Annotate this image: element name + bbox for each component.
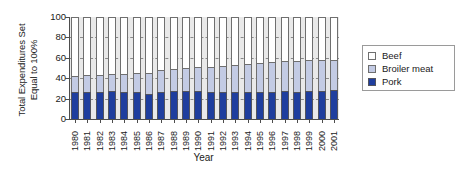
- bar-segment-beef: [182, 17, 190, 68]
- x-axis-tick-mark: [100, 119, 101, 123]
- bar-segment-pork: [133, 92, 141, 119]
- legend-item-label: Pork: [382, 77, 402, 87]
- stacked-bar[interactable]: [194, 17, 202, 119]
- bar-segment-broiler-meat: [293, 61, 301, 93]
- bar-segment-pork: [281, 91, 289, 119]
- y-axis-tick-label: 20: [42, 94, 66, 104]
- stacked-bar[interactable]: [256, 17, 264, 119]
- x-axis-tick-mark: [198, 119, 199, 123]
- bar-segment-beef: [244, 17, 252, 64]
- bar-segment-pork: [207, 92, 215, 119]
- y-axis-tick-mark: [65, 99, 69, 100]
- x-axis-tick-mark: [149, 119, 150, 123]
- bar-segment-pork: [182, 91, 190, 119]
- x-axis-tick-label: 1991: [206, 128, 216, 154]
- bar-segment-pork: [318, 91, 326, 119]
- stacked-bar[interactable]: [244, 17, 252, 119]
- x-axis-tick-labels: 1980198119821983198419851986198719881989…: [69, 124, 338, 150]
- stacked-bar[interactable]: [268, 17, 276, 119]
- bar-segment-pork: [219, 92, 227, 119]
- stacked-bar[interactable]: [83, 17, 91, 119]
- bar-segment-beef: [318, 17, 326, 60]
- stacked-bar[interactable]: [157, 17, 165, 119]
- bar-segment-beef: [207, 17, 215, 67]
- stacked-bar[interactable]: [207, 17, 215, 119]
- x-axis-tick-label: 1989: [181, 128, 191, 154]
- stacked-bar[interactable]: [281, 17, 289, 119]
- x-axis-tick-mark: [260, 119, 261, 123]
- pork-swatch: [368, 78, 376, 86]
- bar-segment-broiler-meat: [231, 65, 239, 93]
- x-axis-tick-label: 2000: [317, 128, 327, 154]
- y-axis-tick-label: 0: [42, 114, 66, 124]
- bar-segment-beef: [120, 17, 128, 74]
- bar-segment-broiler-meat: [157, 70, 165, 92]
- bar-segment-broiler-meat: [256, 63, 264, 93]
- x-axis-tick-label: 1984: [119, 128, 129, 154]
- x-axis-tick-mark: [223, 119, 224, 123]
- bar-segment-broiler-meat: [108, 74, 116, 91]
- bar-segment-beef: [219, 17, 227, 66]
- bar-segment-beef: [231, 17, 239, 65]
- stacked-bar[interactable]: [170, 17, 178, 119]
- plot-area: [69, 17, 339, 120]
- beef-swatch: [368, 52, 376, 60]
- legend-item[interactable]: Pork: [368, 76, 454, 88]
- legend-item[interactable]: Beef: [368, 50, 454, 62]
- stacked-bar[interactable]: [305, 17, 313, 119]
- x-axis-tick-mark: [285, 119, 286, 123]
- bar-segment-pork: [120, 92, 128, 119]
- x-axis-tick-label: 1999: [304, 128, 314, 154]
- bar-segment-pork: [268, 92, 276, 119]
- bar-segment-pork: [170, 91, 178, 119]
- y-axis-tick-mark: [65, 58, 69, 59]
- x-axis-tick-label: 1986: [144, 128, 154, 154]
- x-axis-tick-mark: [297, 119, 298, 123]
- x-axis-tick-mark: [248, 119, 249, 123]
- stacked-bar[interactable]: [219, 17, 227, 119]
- broiler-meat-swatch: [368, 65, 376, 73]
- bar-segment-broiler-meat: [318, 60, 326, 92]
- bar-segment-broiler-meat: [268, 62, 276, 93]
- stacked-bar[interactable]: [120, 17, 128, 119]
- bar-segment-pork: [330, 90, 338, 119]
- x-axis-tick-mark: [211, 119, 212, 123]
- bar-segment-broiler-meat: [305, 60, 313, 92]
- bar-segment-pork: [244, 92, 252, 119]
- bar-segment-pork: [194, 91, 202, 119]
- bar-segment-pork: [305, 91, 313, 119]
- legend-item[interactable]: Broiler meat: [368, 63, 454, 75]
- bar-segment-beef: [83, 17, 91, 75]
- x-axis-tick-label: 1997: [280, 128, 290, 154]
- stacked-bar[interactable]: [96, 17, 104, 119]
- bar-segment-pork: [71, 92, 79, 119]
- bar-segment-pork: [145, 94, 153, 120]
- bar-segment-beef: [293, 17, 301, 61]
- stacked-bar[interactable]: [231, 17, 239, 119]
- stacked-bar[interactable]: [108, 17, 116, 119]
- stacked-bar[interactable]: [145, 17, 153, 119]
- stacked-bar[interactable]: [330, 17, 338, 119]
- chart-legend: BeefBroiler meatPork: [362, 45, 455, 91]
- x-axis-tick-mark: [272, 119, 273, 123]
- x-axis-tick-label: 1982: [95, 128, 105, 154]
- stacked-bar[interactable]: [293, 17, 301, 119]
- bar-segment-broiler-meat: [330, 60, 338, 91]
- bar-segment-beef: [256, 17, 264, 63]
- y-axis-title-line-1: Total Expenditures Set: [16, 0, 28, 155]
- x-axis-tick-label: 1990: [193, 128, 203, 154]
- bar-segment-broiler-meat: [96, 75, 104, 92]
- y-axis-tick-mark: [65, 17, 69, 18]
- stacked-bar[interactable]: [133, 17, 141, 119]
- stacked-bar[interactable]: [182, 17, 190, 119]
- y-axis-tick-label: 100: [42, 12, 66, 22]
- stacked-bar[interactable]: [318, 17, 326, 119]
- y-axis-tick-label: 80: [42, 32, 66, 42]
- bar-segment-beef: [157, 17, 165, 70]
- y-axis-tick-label: 40: [42, 73, 66, 83]
- bar-segment-broiler-meat: [207, 67, 215, 93]
- stacked-bar-chart: Total Expenditures Set Equal to 100% 020…: [0, 0, 462, 176]
- stacked-bar[interactable]: [71, 17, 79, 119]
- bar-segment-beef: [330, 17, 338, 60]
- bar-segment-beef: [108, 17, 116, 74]
